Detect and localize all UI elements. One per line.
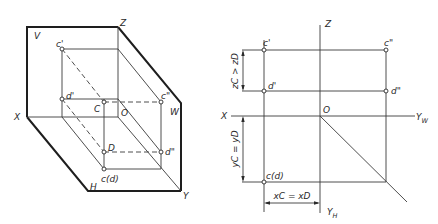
point-c-dprime [384, 48, 388, 52]
projection-figure: V Z X H Y W O C D c' d' c" d" c(d) zC > … [0, 0, 438, 224]
label-cd: c(d) [101, 174, 119, 184]
label-Z: Z [119, 18, 127, 28]
45-degree-line [320, 116, 407, 202]
point-D [102, 150, 106, 154]
label-d-prime: d' [268, 81, 276, 91]
point-C [102, 100, 106, 104]
x-dim-arrow-left [264, 201, 270, 204]
label-V: V [34, 31, 41, 41]
label-H: H [90, 182, 97, 192]
label-c-prime: c' [56, 39, 63, 49]
label-Z: Z [324, 19, 332, 29]
label-d-dprime: d" [391, 86, 401, 96]
z-relation-label: zC > zD [230, 53, 240, 90]
pictorial-diagram: V Z X H Y W O C D c' d' c" d" c(d) [13, 18, 190, 201]
y-relation-label: yC = yD [230, 130, 240, 168]
label-W: W [170, 107, 180, 117]
label-Y: Y [183, 191, 190, 201]
label-X: X [13, 112, 21, 122]
label-C: C [94, 104, 101, 114]
z-dim-arrow-bottom [241, 85, 244, 91]
label-c-dprime: c" [161, 91, 170, 101]
z-dim-arrow-top [241, 50, 244, 56]
d-w-projector [118, 99, 161, 152]
point-d-prime [262, 89, 266, 93]
point-c-prime [262, 48, 266, 52]
point-cd [102, 167, 106, 171]
y-dim-arrow-bottom [241, 176, 244, 182]
point-d-dprime [384, 89, 388, 93]
orthographic-diagram: zC > zD yC = yD xC = xD Z X O YW YH c' d… [220, 19, 429, 220]
label-O: O [121, 108, 128, 118]
label-X: X [220, 111, 228, 121]
label-cd: c(d) [266, 171, 284, 181]
point-d-dprime [159, 150, 163, 154]
label-Y-W: YW [416, 112, 429, 125]
x-dim-arrow-right [314, 201, 320, 204]
c-w-projector [118, 49, 161, 102]
x-relation-label: xC = xD [272, 191, 310, 201]
label-O: O [323, 105, 330, 115]
label-c-prime: c' [263, 38, 270, 48]
label-d-prime: d' [66, 91, 74, 101]
label-D: D [108, 143, 115, 153]
label-d-dprime: d" [165, 147, 175, 157]
y-dim-arrow-top [241, 116, 244, 122]
label-Y-H: YH [327, 207, 338, 220]
label-c-dprime: c" [384, 38, 393, 48]
point-d-prime [60, 97, 64, 101]
